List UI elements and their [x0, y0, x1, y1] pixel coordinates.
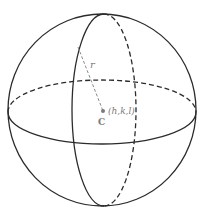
- center-point: [101, 109, 105, 113]
- radius-line: [78, 47, 103, 111]
- equator-back-dashed: [8, 80, 196, 112]
- sphere-diagram: r (h,k,l) C: [0, 0, 204, 217]
- center-coords-label: (h,k,l): [108, 106, 135, 116]
- center-name-label: C: [98, 117, 105, 127]
- radius-label: r: [90, 59, 96, 70]
- meridian-front: [72, 14, 104, 206]
